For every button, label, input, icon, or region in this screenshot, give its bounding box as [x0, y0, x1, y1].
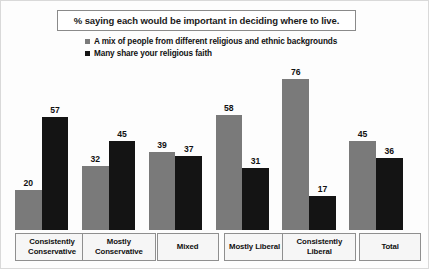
bar[interactable]: 17 [309, 61, 336, 230]
bar-group: 4536 [349, 61, 402, 230]
bar[interactable]: 39 [149, 61, 176, 230]
bar-fill [15, 190, 42, 230]
bar[interactable]: 20 [15, 61, 42, 230]
bar-group: 3245 [82, 61, 135, 230]
legend-item-faith: Many share your religious faith [85, 49, 337, 58]
bar-fill [216, 115, 243, 230]
bar[interactable]: 76 [282, 61, 309, 230]
bar-value-label: 58 [216, 103, 243, 113]
bar-group: 5831 [216, 61, 269, 230]
bar[interactable]: 36 [376, 61, 403, 230]
bar-pair: 4536 [349, 61, 402, 230]
bar-value-label: 31 [242, 156, 269, 166]
legend-label: Many share your religious faith [94, 49, 212, 58]
bar-value-label: 45 [109, 129, 136, 139]
bar-fill [175, 156, 202, 230]
bar[interactable]: 58 [216, 61, 243, 230]
legend-swatch-icon [85, 39, 90, 44]
bar-value-label: 36 [376, 146, 403, 156]
bar-fill [282, 79, 309, 230]
category-label: Total [381, 242, 399, 252]
bar[interactable]: 57 [42, 61, 69, 230]
category-label: Mixed [177, 242, 199, 252]
bar-pair: 2057 [15, 61, 68, 230]
bar-pair: 5831 [216, 61, 269, 230]
chart-container: % saying each would be important in deci… [0, 0, 429, 269]
bar-group: 7617 [282, 61, 335, 230]
category-label-box: Mostly Liberal [224, 233, 286, 261]
legend-label: A mix of people from different religious… [94, 37, 337, 46]
bar-fill [309, 196, 336, 230]
chart-title-box: % saying each would be important in deci… [57, 10, 356, 31]
category-label: Consistently Conservative [16, 237, 88, 256]
bar-fill [376, 158, 403, 230]
bar-fill [109, 141, 136, 230]
legend-swatch-icon [85, 51, 90, 56]
bar-pair: 3245 [82, 61, 135, 230]
bar-value-label: 17 [309, 184, 336, 194]
chart-legend: A mix of people from different religious… [85, 37, 337, 58]
bar-value-label: 57 [42, 105, 69, 115]
bar[interactable]: 32 [82, 61, 109, 230]
bar-pair: 3937 [149, 61, 202, 230]
bar-fill [349, 141, 376, 230]
legend-item-mix: A mix of people from different religious… [85, 37, 337, 46]
category-label-box: Consistently Liberal [282, 233, 356, 261]
bar-value-label: 45 [349, 129, 376, 139]
bar[interactable]: 45 [109, 61, 136, 230]
category-label-box: Consistently Conservative [15, 233, 89, 261]
bar[interactable]: 45 [349, 61, 376, 230]
category-label-box: Total [359, 233, 421, 261]
bar-pair: 7617 [282, 61, 335, 230]
category-label: Mostly Conservative [83, 237, 155, 256]
bar-fill [242, 168, 269, 230]
category-label: Consistently Liberal [283, 237, 355, 256]
bar-fill [42, 117, 69, 230]
category-label-box: Mixed [157, 233, 219, 261]
bar-value-label: 20 [15, 178, 42, 188]
bar-value-label: 76 [282, 67, 309, 77]
category-label-box: Mostly Conservative [82, 233, 156, 261]
page-title: % saying each would be important in deci… [74, 15, 339, 26]
bar-fill [82, 166, 109, 230]
bar[interactable]: 37 [175, 61, 202, 230]
bar-group: 2057 [15, 61, 68, 230]
bar-value-label: 32 [82, 154, 109, 164]
bar-value-label: 37 [175, 144, 202, 154]
category-label: Mostly Liberal [229, 242, 280, 252]
bar-value-label: 39 [149, 140, 176, 150]
bar-fill [149, 152, 176, 230]
plot-area: 205732453937583176174536 [15, 61, 416, 230]
category-axis: Consistently ConservativeMostly Conserva… [15, 233, 416, 263]
bar-group: 3937 [149, 61, 202, 230]
bar[interactable]: 31 [242, 61, 269, 230]
